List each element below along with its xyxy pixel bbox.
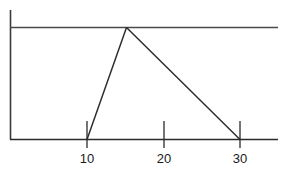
density-falling-edge — [127, 28, 241, 140]
tick-label-10: 10 — [80, 152, 94, 165]
triangular-distribution-figure: 10 20 30 — [0, 0, 285, 177]
tick-label-30: 30 — [233, 152, 247, 165]
tick-label-20: 20 — [157, 152, 171, 165]
density-rising-edge — [87, 28, 127, 140]
